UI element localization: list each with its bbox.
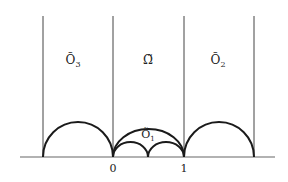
- arc-left-large: [43, 122, 113, 157]
- arc-small-right: [148, 142, 184, 157]
- region-label-o2: Õ2: [211, 52, 226, 69]
- tick-label-zero: 0: [110, 162, 117, 175]
- arc-right-large: [184, 122, 254, 157]
- arc-small-left: [113, 142, 148, 157]
- diagram-canvas: Õ3 Ω̃ Õ2 Õ1 0 1: [0, 0, 288, 182]
- region-label-o3: Õ3: [66, 52, 81, 69]
- tick-label-one: 1: [181, 162, 188, 175]
- region-label-omega: Ω̃: [143, 53, 153, 67]
